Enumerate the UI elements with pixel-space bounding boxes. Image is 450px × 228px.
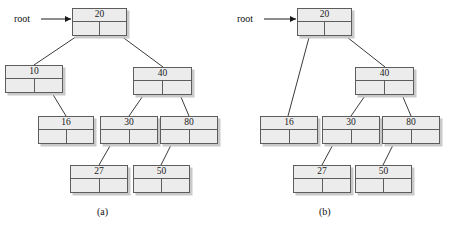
panel-a-node-16-pointer-row [39,130,93,143]
panel-a-node-27-left-pointer-cell [71,179,100,192]
panel-b-node-27-value: 27 [294,166,350,179]
panel-a-node-10-pointer-row [6,79,62,92]
panel-a-node-16: 16 [38,116,94,144]
panel-a-node-40-right-pointer-cell [163,81,191,94]
panel-a-node-80-pointer-row [161,130,217,143]
panel-a-node-27-pointer-row [71,179,127,192]
panel-a-node-27-value: 27 [71,166,127,179]
panel-b-node-20-pointer-row [298,22,351,35]
panel-b-node-27: 27 [293,165,351,193]
panel-a-node-16-value: 16 [39,117,93,130]
panel-b-node-20: 20 [297,8,352,36]
panel-a-caption: (a) [97,207,108,217]
panel-b-node-50-pointer-row [356,179,411,192]
panel-b-node-27-right-pointer-cell [323,179,351,192]
panel-a-root-label: root [14,14,30,24]
panel-a-node-30-pointer-row [101,130,157,143]
panel-a-node-80: 80 [160,116,218,144]
figure-canvas: root2010401630802750(a)root2040163080275… [0,0,450,228]
panel-a-node-40-left-pointer-cell [134,81,163,94]
panel-b-link-20-left-to-16 [288,30,311,116]
panel-b-node-30-value: 30 [323,117,379,130]
panel-b-node-80-right-pointer-cell [412,130,440,143]
connector-layer [0,0,450,228]
panel-a-node-27-right-pointer-cell [100,179,128,192]
panel-a-node-80-right-pointer-cell [190,130,218,143]
panel-a-node-50: 50 [133,165,190,193]
panel-b-node-80-left-pointer-cell [383,130,412,143]
panel-b-node-50-left-pointer-cell [356,179,384,192]
panel-b-node-16-pointer-row [261,130,317,143]
panel-b-node-27-pointer-row [294,179,350,192]
panel-b-node-30-right-pointer-cell [352,130,380,143]
panel-b-node-80: 80 [382,116,440,144]
panel-a-node-27: 27 [70,165,128,193]
panel-b-caption: (b) [319,207,331,217]
panel-a-node-20-value: 20 [73,9,126,22]
panel-a-node-20-pointer-row [73,22,126,35]
panel-a-node-10: 10 [5,65,63,93]
panel-a-node-16-right-pointer-cell [67,130,94,143]
panel-b-node-40-left-pointer-cell [356,81,385,94]
panel-a-node-50-value: 50 [134,166,189,179]
panel-b-node-20-value: 20 [298,9,351,22]
panel-a-node-20-right-pointer-cell [100,22,126,35]
panel-a-node-50-left-pointer-cell [134,179,162,192]
panel-a-node-50-right-pointer-cell [162,179,189,192]
panel-b-node-20-left-pointer-cell [298,22,325,35]
panel-b-node-80-value: 80 [383,117,439,130]
panel-a-node-30-left-pointer-cell [101,130,130,143]
panel-a-node-20-left-pointer-cell [73,22,100,35]
panel-b-node-40-right-pointer-cell [385,81,413,94]
panel-a-node-50-pointer-row [134,179,189,192]
panel-a-node-10-right-pointer-cell [35,79,63,92]
panel-b-node-20-right-pointer-cell [325,22,351,35]
panel-b-node-16: 16 [260,116,318,144]
panel-b-node-80-pointer-row [383,130,439,143]
panel-a-node-10-value: 10 [6,66,62,79]
panel-b-node-16-value: 16 [261,117,317,130]
panel-b-node-16-left-pointer-cell [261,130,290,143]
panel-a-node-80-left-pointer-cell [161,130,190,143]
panel-b-node-50: 50 [355,165,412,193]
panel-a-node-20: 20 [72,8,127,36]
panel-b-node-30-left-pointer-cell [323,130,352,143]
panel-a-node-40-pointer-row [134,81,191,94]
panel-a-node-40-value: 40 [134,68,191,81]
panel-b-node-40: 40 [355,67,414,95]
panel-a-node-30-right-pointer-cell [130,130,158,143]
panel-a-node-30-value: 30 [101,117,157,130]
panel-a-node-16-left-pointer-cell [39,130,67,143]
panel-b-root-label: root [237,14,253,24]
panel-b-node-30: 30 [322,116,380,144]
panel-b-node-40-pointer-row [356,81,413,94]
panel-b-node-30-pointer-row [323,130,379,143]
panel-a-node-40: 40 [133,67,192,95]
panel-b-node-50-right-pointer-cell [384,179,411,192]
panel-b-node-50-value: 50 [356,166,411,179]
panel-a-node-10-left-pointer-cell [6,79,35,92]
panel-b-node-40-value: 40 [356,68,413,81]
panel-a-node-80-value: 80 [161,117,217,130]
panel-b-node-16-right-pointer-cell [290,130,318,143]
panel-a-node-30: 30 [100,116,158,144]
panel-b-node-27-left-pointer-cell [294,179,323,192]
